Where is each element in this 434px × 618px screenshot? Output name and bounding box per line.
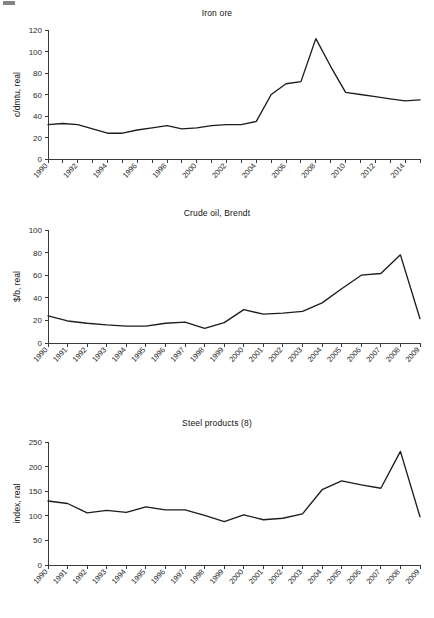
x-tick-label: 2008 (384, 567, 402, 586)
x-tick-label: 2000 (227, 345, 245, 364)
y-tick-label: 150 (29, 487, 43, 496)
x-tick-label: 1996 (149, 567, 167, 586)
x-tick-label: 1993 (90, 567, 108, 586)
series-line-oil (48, 255, 420, 328)
y-tick-label: 40 (33, 294, 42, 303)
x-tick-label: 1996 (121, 161, 139, 180)
x-tick-label: 2001 (247, 345, 265, 364)
x-tick-label: 2002 (266, 567, 284, 586)
x-tick-label: 1992 (61, 161, 79, 180)
x-tick-label: 2003 (286, 345, 304, 364)
x-tick-label: 2004 (240, 161, 258, 180)
x-tick-label: 1992 (71, 345, 89, 364)
y-tick-label: 200 (29, 463, 43, 472)
y-tick-label: 100 (29, 512, 43, 521)
y-tick-label: 20 (33, 316, 42, 325)
y-tick-label: 60 (33, 271, 42, 280)
x-tick-label: 2010 (329, 161, 347, 180)
x-tick-label: 2009 (403, 567, 421, 586)
x-tick-label: 2005 (325, 345, 343, 364)
x-tick-label: 1994 (110, 567, 128, 586)
x-tick-label: 1991 (51, 567, 69, 586)
x-tick-label: 1990 (31, 161, 49, 180)
x-tick-label: 2006 (345, 567, 363, 586)
y-tick-label: 120 (29, 26, 43, 35)
x-tick-label: 2001 (247, 567, 265, 586)
y-tick-label: 100 (29, 48, 43, 57)
x-tick-label: 2012 (359, 161, 377, 180)
x-tick-label: 1997 (169, 345, 187, 364)
y-tick-label: 80 (33, 69, 42, 78)
x-tick-label: 2004 (306, 345, 324, 364)
x-tick-label: 1999 (208, 567, 226, 586)
series-line-steel (48, 451, 420, 521)
y-tick-label: 20 (33, 134, 42, 143)
x-tick-label: 2007 (364, 567, 382, 586)
y-axis-title: c/dmtu, real (12, 72, 22, 117)
chart-plot-iron-ore: 020406080100120c/dmtu, real1990199219941… (0, 0, 434, 200)
x-tick-label: 1995 (129, 345, 147, 364)
x-tick-label: 2002 (266, 345, 284, 364)
series-line-iron (48, 39, 420, 134)
y-tick-label: 100 (29, 226, 43, 235)
x-tick-label: 2002 (210, 161, 228, 180)
x-tick-label: 1998 (188, 345, 206, 364)
y-tick-label: 40 (33, 112, 42, 121)
x-tick-label: 2000 (227, 567, 245, 586)
x-tick-label: 2000 (180, 161, 198, 180)
chart-panel-crude-oil: Crude oil, Brendt 020406080100$/b, real1… (0, 200, 434, 410)
y-axis-title: index, real (12, 484, 22, 524)
x-tick-label: 1990 (31, 567, 49, 586)
x-tick-label: 1994 (91, 161, 109, 180)
x-tick-label: 2009 (403, 345, 421, 364)
chart-panel-iron-ore: Iron ore 020406080100120c/dmtu, real1990… (0, 0, 434, 200)
x-tick-label: 1998 (188, 567, 206, 586)
x-tick-label: 2007 (364, 345, 382, 364)
x-tick-label: 1991 (51, 345, 69, 364)
x-tick-label: 1992 (71, 567, 89, 586)
x-tick-label: 2008 (384, 345, 402, 364)
x-tick-label: 1998 (151, 161, 169, 180)
chart-panel-steel-products: Steel products (8) 050100150200250index,… (0, 410, 434, 618)
chart-plot-steel-products: 050100150200250index, real19901991199219… (0, 410, 434, 618)
x-tick-label: 2006 (345, 345, 363, 364)
x-tick-label: 2005 (325, 567, 343, 586)
y-tick-label: 50 (33, 536, 42, 545)
x-tick-label: 1996 (149, 345, 167, 364)
y-tick-label: 60 (33, 91, 42, 100)
x-tick-label: 1994 (110, 345, 128, 364)
y-tick-label: 80 (33, 249, 42, 258)
x-tick-label: 2004 (306, 567, 324, 586)
x-tick-label: 1997 (169, 567, 187, 586)
chart-plot-crude-oil: 020406080100$/b, real1990199119921993199… (0, 200, 434, 410)
x-tick-label: 2006 (270, 161, 288, 180)
x-tick-label: 2003 (286, 567, 304, 586)
x-tick-label: 1995 (129, 567, 147, 586)
x-tick-label: 1990 (31, 345, 49, 364)
x-tick-label: 1993 (90, 345, 108, 364)
figure-page: Iron ore 020406080100120c/dmtu, real1990… (0, 0, 434, 618)
y-tick-label: 250 (29, 438, 43, 447)
y-axis-title: $/b, real (12, 271, 22, 302)
x-tick-label: 2008 (299, 161, 317, 180)
x-tick-label: 1999 (208, 345, 226, 364)
x-tick-label: 2014 (389, 161, 407, 180)
